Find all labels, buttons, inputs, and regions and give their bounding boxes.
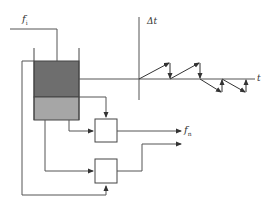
diagram-canvas — [0, 0, 270, 203]
x-axis-label: t — [257, 74, 261, 83]
y-axis-label: Δt — [147, 17, 157, 26]
outflow-label-sub: n — [188, 130, 192, 137]
interface-to-block1 — [79, 97, 106, 117]
block-1 — [95, 119, 117, 142]
tank-upper-layer — [34, 61, 79, 97]
tank-lower-layer — [34, 97, 79, 120]
inflow-label-sub: i — [26, 19, 28, 26]
inflow-label: fi — [22, 14, 28, 26]
outflow-label: fn — [184, 125, 192, 137]
block2-output — [117, 144, 181, 171]
block-2 — [95, 159, 117, 183]
sawtooth-signal — [139, 63, 246, 92]
bottom-to-block1 — [69, 120, 93, 131]
